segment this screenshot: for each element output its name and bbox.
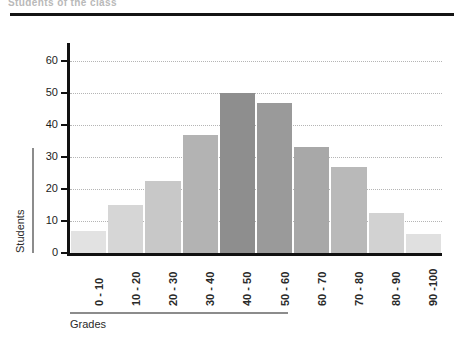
y-tick-label: 0 (30, 246, 58, 258)
chart-page: Students of the class 0102030405060 0 - … (0, 0, 464, 346)
x-tick-label-text: 80 - 90 (390, 272, 402, 306)
x-tick-label-text: 70 - 80 (353, 272, 365, 306)
bar[interactable] (294, 147, 329, 253)
y-tick-mark (61, 252, 68, 254)
y-tick-label: 20 (30, 182, 58, 194)
y-tick-label: 10 (30, 214, 58, 226)
x-axis-title-rule (70, 312, 288, 314)
y-tick-mark (61, 220, 68, 222)
bar[interactable] (331, 167, 366, 253)
y-tick-label: 60 (30, 54, 58, 66)
y-tick-mark (61, 92, 68, 94)
x-tick-label-text: 0 - 10 (93, 278, 105, 306)
x-tick-label-text: 90 -100 (427, 269, 439, 306)
x-tick-label-text: 60 - 70 (316, 272, 328, 306)
x-tick-label-text: 20 - 30 (167, 272, 179, 306)
x-tick-label-text: 10 - 20 (130, 272, 142, 306)
bar[interactable] (220, 93, 255, 253)
bar[interactable] (71, 231, 106, 253)
bar[interactable] (108, 205, 143, 253)
truncated-heading: Students of the class (8, 0, 308, 8)
y-tick-label: 30 (30, 150, 58, 162)
x-tick-label-text: 40 - 50 (241, 272, 253, 306)
y-axis-title: Students (14, 210, 26, 253)
bar[interactable] (406, 234, 441, 253)
y-axis-title-rule (32, 148, 34, 253)
y-tick-mark (61, 124, 68, 126)
x-axis-tick-labels: 0 - 1010 - 2020 - 3030 - 4040 - 5050 - 6… (70, 258, 442, 308)
x-tick-label-text: 30 - 40 (204, 272, 216, 306)
bar[interactable] (145, 181, 180, 253)
x-axis-title: Grades (70, 318, 106, 330)
bar[interactable] (369, 213, 404, 253)
y-tick-mark (61, 188, 68, 190)
x-tick-label-text: 50 - 60 (279, 272, 291, 306)
y-tick-label: 50 (30, 86, 58, 98)
bar[interactable] (257, 103, 292, 253)
y-tick-label: 40 (30, 118, 58, 130)
bar-series (70, 45, 442, 253)
x-axis-line (67, 253, 442, 256)
header-divider (10, 13, 454, 16)
plot-area (70, 45, 442, 253)
y-tick-mark (61, 60, 68, 62)
y-tick-mark (61, 156, 68, 158)
bar[interactable] (183, 135, 218, 253)
